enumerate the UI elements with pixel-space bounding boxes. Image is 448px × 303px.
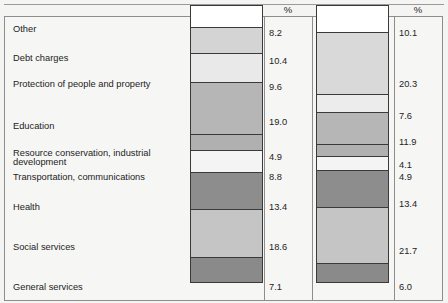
value-1970-debt-charges: 10.4 <box>269 56 309 67</box>
value-1970-education: 19.0 <box>269 117 309 128</box>
value-1990-transportation: 4.9 <box>399 172 439 183</box>
stacked-bar-chart: 1970-71 % 1990-91 % Other Debt charges P… <box>0 0 448 303</box>
category-label-education: Education <box>13 121 183 132</box>
value-1990-protection: 7.6 <box>399 111 439 122</box>
value-1990-general-services: 6.0 <box>399 282 439 293</box>
value-1990-other: 10.1 <box>399 28 439 39</box>
column-divider-2 <box>312 16 313 301</box>
column-header-percent-2: % <box>394 3 442 16</box>
column-divider-3 <box>394 16 395 301</box>
segment-1990-social-services <box>316 207 389 264</box>
value-1970-protection: 9.6 <box>269 82 309 93</box>
column-divider-1 <box>264 16 265 301</box>
segment-1990-transportation <box>316 156 389 171</box>
segment-1970-education <box>190 82 263 135</box>
category-label-debt-charges: Debt charges <box>13 53 183 64</box>
value-1970-transportation: 8.8 <box>269 172 309 183</box>
category-label-general-services: General services <box>13 282 183 293</box>
segment-1970-health <box>190 172 263 210</box>
category-label-other: Other <box>13 24 183 35</box>
column-header-percent-1: % <box>264 3 312 16</box>
value-1990-education: 11.9 <box>399 137 439 148</box>
value-1970-health: 13.4 <box>269 202 309 213</box>
category-label-transportation: Transportation, communications <box>13 172 183 183</box>
value-1990-debt-charges: 20.3 <box>399 79 439 90</box>
segment-1970-social-services <box>190 209 263 258</box>
segment-1970-resource <box>190 134 263 151</box>
category-label-social-services: Social services <box>13 242 183 253</box>
segment-1970-protection <box>190 53 263 83</box>
segment-1970-general-services <box>190 257 263 283</box>
segment-1990-education <box>316 112 389 145</box>
segment-1990-other <box>316 5 389 33</box>
value-1970-resource: 4.9 <box>269 152 309 163</box>
category-label-health: Health <box>13 202 183 213</box>
category-label-protection: Protection of people and property <box>13 79 183 90</box>
segment-1990-general-services <box>316 263 389 283</box>
segment-1990-health <box>316 170 389 208</box>
segment-1970-debt-charges <box>190 27 263 54</box>
value-1990-resource: 4.1 <box>399 160 439 171</box>
segment-1990-protection <box>316 94 389 113</box>
segment-1990-debt-and-protection <box>316 32 389 95</box>
value-1970-general-services: 7.1 <box>269 282 309 293</box>
value-1990-social-services: 21.7 <box>399 246 439 257</box>
value-1990-health: 13.4 <box>399 199 439 210</box>
value-1970-social-services: 18.6 <box>269 242 309 253</box>
value-1970-other: 8.2 <box>269 28 309 39</box>
category-label-resource-conservation-line2: development <box>13 157 183 168</box>
segment-1970-transportation <box>190 150 263 173</box>
segment-1970-other <box>190 5 263 28</box>
